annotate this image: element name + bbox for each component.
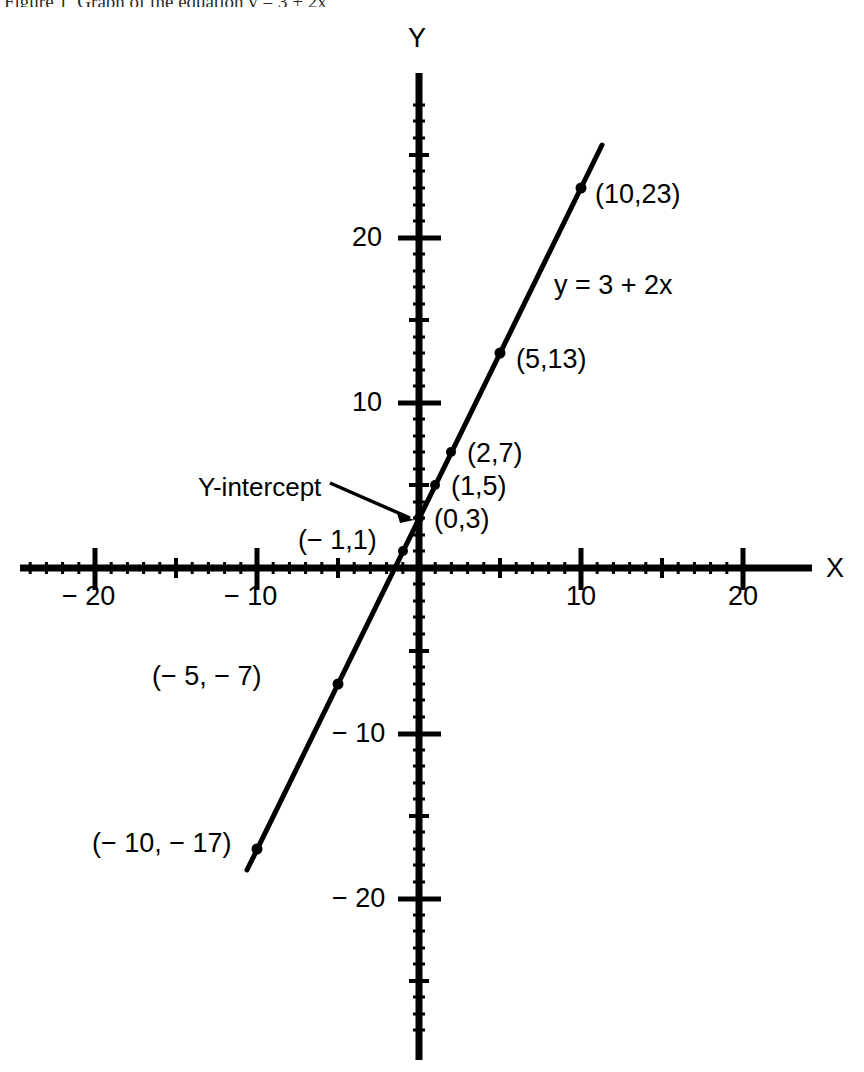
data-point-5	[495, 348, 506, 359]
point-label-minus5-minus7: (− 5, − 7)	[152, 663, 262, 690]
figure-canvas: Figure 1 Graph of the equation y = 3 + 2…	[0, 0, 864, 1072]
x-tick-label-minus-10: − 10	[224, 583, 277, 610]
x-tick-label-minus-20: − 20	[62, 583, 115, 610]
point-label-1-5: (1,5)	[451, 473, 507, 500]
y-tick-label-minus-10: − 10	[332, 720, 385, 747]
point-label-minus1-1: (− 1,1)	[298, 527, 377, 554]
y-tick-label-20: 20	[352, 224, 382, 251]
y-tick-label-minus-20: − 20	[332, 885, 385, 912]
data-point-0	[414, 513, 424, 523]
point-label-2-7: (2,7)	[467, 440, 523, 467]
point-label-minus10-minus17: (− 10, − 17)	[92, 830, 232, 857]
data-point-m5	[333, 679, 344, 690]
data-point-2	[446, 447, 456, 457]
point-label-0-3: (0,3)	[434, 506, 490, 533]
point-label-5-13: (5,13)	[516, 346, 587, 373]
y-axis-label: Y	[408, 25, 426, 52]
y-intercept-annotation: Y-intercept	[198, 474, 321, 500]
data-point-m1	[398, 546, 408, 556]
data-point-10	[576, 183, 587, 194]
point-label-10-23: (10,23)	[595, 181, 681, 208]
x-axis-label: X	[826, 555, 844, 582]
x-tick-label-10: 10	[566, 583, 596, 610]
x-tick-label-20: 20	[728, 583, 758, 610]
equation-annotation: y = 3 + 2x	[554, 272, 673, 299]
y-tick-label-10: 10	[352, 389, 382, 416]
y-intercept-arrow	[330, 483, 414, 523]
data-point-m10	[252, 844, 263, 855]
data-point-1	[430, 480, 440, 490]
coordinate-plane-graphic	[0, 0, 864, 1072]
